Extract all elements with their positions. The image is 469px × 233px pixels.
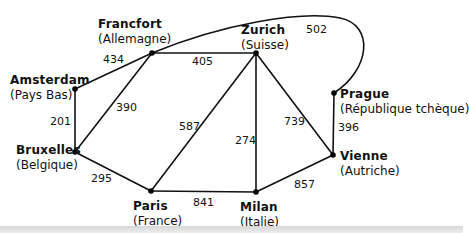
bottom-shadow-strip <box>0 226 463 233</box>
edge-bruxelles-paris <box>75 152 151 191</box>
label-zurich: Zurich (Suisse) <box>241 24 289 51</box>
city-name: Bruxelles <box>16 144 81 156</box>
edge-zurich-vienne <box>256 53 333 155</box>
distance-francfort-prague: 502 <box>306 24 327 35</box>
node-francfort <box>149 50 155 56</box>
edge-prague-vienne <box>333 93 334 155</box>
country-name: (Allemagne) <box>98 33 171 45</box>
node-vienne <box>330 152 336 158</box>
city-name: Zurich <box>241 24 289 36</box>
country-name: (Suisse) <box>241 39 289 51</box>
label-paris: Paris (France) <box>133 200 182 227</box>
distance-zurich-vienne: 739 <box>284 116 305 127</box>
label-amsterdam: Amsterdam (Pays Bas) <box>10 74 90 101</box>
city-name: Milan <box>240 201 279 213</box>
edge-francfort-bruxelles <box>75 53 152 152</box>
distance-amsterdam-bruxelles: 201 <box>50 116 71 127</box>
country-name: (Autriche) <box>340 165 400 177</box>
country-name: (République tchèque) <box>340 103 469 115</box>
country-name: (Pays Bas) <box>10 89 90 101</box>
city-name: Francfort <box>98 18 171 30</box>
distance-francfort-zurich: 405 <box>192 56 213 67</box>
node-prague <box>331 90 337 96</box>
distance-prague-vienne: 396 <box>338 122 359 133</box>
distance-francfort-bruxelles: 390 <box>116 102 137 113</box>
label-prague: Prague (République tchèque) <box>340 88 469 115</box>
node-milan <box>253 189 259 195</box>
city-name: Paris <box>133 200 182 212</box>
distance-zurich-milan: 274 <box>235 135 256 146</box>
distance-paris-milan: 841 <box>193 197 214 208</box>
label-francfort: Francfort (Allemagne) <box>98 18 171 45</box>
distance-amsterdam-francfort: 434 <box>103 54 124 65</box>
label-bruxelles: Bruxelles (Belgique) <box>16 144 81 171</box>
city-name: Prague <box>340 88 469 100</box>
country-name: (Belgique) <box>16 159 81 171</box>
node-paris <box>148 188 154 194</box>
label-milan: Milan (Italie) <box>240 201 279 228</box>
distance-bruxelles-paris: 295 <box>91 173 112 184</box>
city-name: Amsterdam <box>10 74 90 86</box>
edge-paris-milan <box>151 191 256 192</box>
distance-milan-vienne: 857 <box>294 179 315 190</box>
label-vienne: Vienne (Autriche) <box>340 150 400 177</box>
edge-zurich-paris <box>151 53 256 191</box>
distance-zurich-paris: 587 <box>179 121 200 132</box>
city-name: Vienne <box>340 150 400 162</box>
